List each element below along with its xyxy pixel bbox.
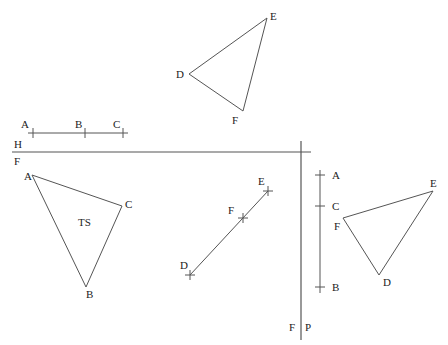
label-vseg-C: C [332,200,339,212]
horizontal-edge-segment: A B C [21,118,128,138]
label-front-B: B [86,288,93,300]
label-vseg-A: A [332,169,340,181]
hf-fold-line: H F [12,138,311,167]
label-top-D: D [176,68,184,80]
label-edge-F: F [228,204,234,216]
profile-view-triangle: F E D [334,177,437,288]
label-seg-A: A [21,118,29,130]
front-view-triangle: A C B TS [24,170,132,300]
label-right-D: D [383,276,391,288]
label-top-F: F [232,114,238,126]
label-fp-P: P [305,321,311,333]
label-H: H [14,138,22,150]
label-top-E: E [270,10,277,22]
top-view-triangle: D E F [176,10,277,126]
label-vseg-B: B [332,281,339,293]
fp-fold-line: F P [289,141,311,340]
label-edge-E: E [258,175,265,187]
edge-view-line: D F E [180,175,273,280]
label-front-A: A [24,170,32,182]
label-front-C: C [125,198,132,210]
label-edge-D: D [180,259,188,271]
label-seg-C: C [113,118,120,130]
label-seg-B: B [75,118,82,130]
projection-diagram: D E F A B C H F F P A C B TS [0,0,448,345]
label-right-E: E [430,177,437,189]
label-F: F [14,155,20,167]
label-fp-F: F [289,321,295,333]
label-true-size: TS [78,216,91,228]
label-right-F: F [334,220,340,232]
